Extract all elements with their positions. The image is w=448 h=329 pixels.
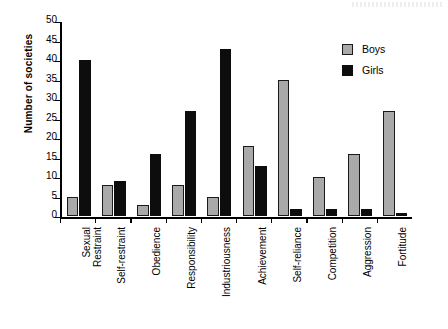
y-tick-label: 15	[46, 152, 57, 162]
x-tick-mark	[236, 218, 237, 223]
bar-group	[172, 21, 196, 216]
bar-boys	[313, 177, 325, 216]
x-axis-label: Achievement	[258, 227, 269, 329]
bar-boys	[348, 154, 360, 216]
bar-girls	[255, 166, 267, 217]
bar-boys	[102, 185, 114, 216]
bar-girls	[361, 209, 373, 217]
x-tick-mark	[271, 218, 272, 223]
x-axis-label: Self-reliance	[293, 227, 304, 329]
bar-group	[243, 21, 267, 216]
bar-girls	[220, 49, 232, 217]
bar-group	[137, 21, 161, 216]
bar-group	[278, 21, 302, 216]
x-axis-label: SexualRestraint	[82, 227, 103, 329]
legend-label: Boys	[362, 44, 385, 55]
y-tick-label: 40	[46, 54, 57, 64]
legend-swatch-girls	[342, 65, 353, 76]
x-axis-label: Industriousness	[222, 227, 233, 329]
x-tick-mark	[166, 218, 167, 223]
x-tick-mark	[342, 218, 343, 223]
y-tick-label: 35	[46, 74, 57, 84]
y-tick-label: 10	[46, 171, 57, 181]
x-axis-label: Responsibility	[187, 227, 198, 329]
x-axis-label: Obedience	[152, 227, 163, 329]
bar-group	[207, 21, 231, 216]
x-axis-label: Fortitude	[398, 227, 409, 329]
x-axis-label: Aggression	[363, 227, 374, 329]
bar-boys	[278, 80, 290, 217]
bar-girls	[290, 209, 302, 217]
bar-boys	[172, 185, 184, 216]
y-tick-label: 5	[51, 191, 57, 201]
y-tick-label: 25	[46, 113, 57, 123]
x-axis-label: Self-restraint	[117, 227, 128, 329]
bar-boys	[137, 205, 149, 217]
bar-girls	[326, 209, 338, 217]
chart-legend: BoysGirls	[342, 44, 434, 86]
x-tick-mark	[60, 218, 61, 223]
bar-girls	[396, 213, 408, 217]
bar-boys	[207, 197, 219, 217]
x-tick-mark	[306, 218, 307, 223]
bar-girls	[114, 181, 126, 216]
y-tick-label: 30	[46, 93, 57, 103]
bar-group	[67, 21, 91, 216]
x-tick-mark	[377, 218, 378, 223]
bar-girls	[185, 111, 197, 216]
y-axis-line	[60, 22, 62, 218]
x-tick-mark	[95, 218, 96, 223]
y-tick-label: 20	[46, 132, 57, 142]
legend-item-girls: Girls	[342, 65, 434, 76]
bar-group	[102, 21, 126, 216]
y-tick-label: 50	[46, 15, 57, 25]
bar-chart-figure: Number of societies 05101520253035404550…	[0, 0, 448, 329]
legend-item-boys: Boys	[342, 44, 434, 55]
legend-swatch-boys	[342, 44, 353, 55]
scan-artifact	[352, 2, 444, 7]
bar-girls	[79, 60, 91, 216]
x-axis-label: Competition	[328, 227, 339, 329]
x-tick-mark	[130, 218, 131, 223]
y-tick-label: 0	[51, 210, 57, 220]
bar-boys	[67, 197, 79, 217]
bar-group	[313, 21, 337, 216]
y-axis-title: Number of societies	[23, 4, 34, 164]
bar-boys	[383, 111, 395, 216]
bar-girls	[150, 154, 162, 216]
bar-boys	[243, 146, 255, 216]
y-tick-label: 45	[46, 35, 57, 45]
x-tick-mark	[201, 218, 202, 223]
legend-label: Girls	[362, 65, 384, 76]
